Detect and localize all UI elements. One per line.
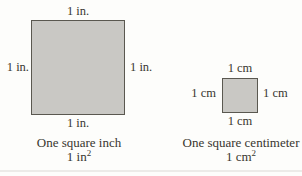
inch-side-label-left: 1 in. (1, 61, 29, 74)
inch-formula-base: 1 in (67, 149, 87, 164)
cm-side-label-top: 1 cm (210, 62, 270, 75)
square-inch-shape (31, 20, 125, 115)
cm-side-label-right: 1 cm (263, 87, 299, 100)
bottom-scan-line (0, 170, 302, 172)
unit-squares-figure: 1 in. 1 in. 1 in. 1 in. One square inch … (0, 0, 302, 176)
cm-side-label-left: 1 cm (186, 87, 216, 100)
inch-caption: One square inch (9, 136, 149, 150)
cm-caption: One square centimeter (170, 136, 302, 150)
inch-formula-exponent: 2 (87, 148, 92, 158)
inch-formula: 1 in2 (9, 150, 149, 164)
cm-formula-exponent: 2 (252, 148, 257, 158)
inch-side-label-top: 1 in. (31, 5, 125, 18)
inch-side-label-right: 1 in. (130, 61, 164, 74)
cm-formula-base: 1 cm (226, 149, 252, 164)
square-cm-shape (222, 78, 258, 113)
inch-side-label-bottom: 1 in. (31, 117, 125, 130)
cm-side-label-bottom: 1 cm (210, 115, 270, 128)
cm-formula: 1 cm2 (170, 150, 302, 164)
